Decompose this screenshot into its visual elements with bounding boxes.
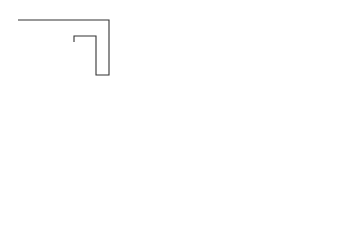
electromagnet-diagram (0, 0, 351, 238)
e-core (18, 20, 109, 75)
panel-a (18, 20, 109, 75)
